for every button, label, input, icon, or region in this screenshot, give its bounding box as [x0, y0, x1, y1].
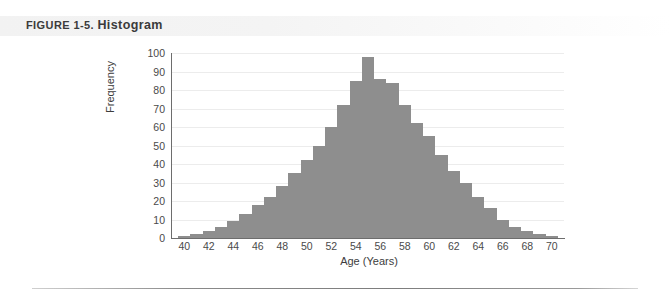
y-axis-title: Frequency — [104, 61, 116, 113]
histogram-bar — [301, 160, 313, 238]
histogram-bar — [362, 57, 374, 238]
y-tick-label: 30 — [139, 177, 165, 189]
y-tick-label: 90 — [139, 66, 165, 78]
x-axis-ticks: 40424446485052545658606264666870 — [172, 240, 566, 256]
figure-caption: FIGURE 1-5. Histogram — [26, 18, 163, 32]
y-tick-label: 40 — [139, 158, 165, 170]
histogram-bar — [423, 136, 435, 238]
x-tick-label: 40 — [173, 240, 195, 252]
histogram-bar — [215, 227, 227, 238]
histogram-bar — [497, 220, 509, 239]
y-tick-label: 10 — [139, 214, 165, 226]
plot-area — [172, 53, 564, 238]
y-axis-ticks: 0102030405060708090100 — [137, 53, 165, 238]
histogram-bar — [411, 123, 423, 238]
x-tick-label: 44 — [222, 240, 244, 252]
histogram-bar — [276, 186, 288, 238]
x-tick-label: 58 — [394, 240, 416, 252]
x-tick-label: 54 — [345, 240, 367, 252]
x-tick-label: 68 — [516, 240, 538, 252]
histogram-bar — [252, 205, 264, 238]
x-tick-label: 50 — [296, 240, 318, 252]
x-tick-label: 52 — [320, 240, 342, 252]
x-tick-label: 62 — [443, 240, 465, 252]
y-tick-label: 0 — [139, 232, 165, 244]
figure-title: Histogram — [97, 18, 162, 32]
histogram-bar — [203, 231, 215, 238]
histogram-bar — [546, 236, 558, 238]
y-tick-label: 50 — [139, 140, 165, 152]
x-tick-label: 46 — [247, 240, 269, 252]
histogram-bar — [521, 231, 533, 238]
x-tick-label: 48 — [271, 240, 293, 252]
histogram-bar — [448, 171, 460, 238]
x-tick-label: 56 — [369, 240, 391, 252]
histogram-bar — [288, 173, 300, 238]
x-axis-title: Age (Years) — [172, 255, 566, 267]
x-axis-line — [171, 238, 565, 239]
histogram-bar — [239, 214, 251, 238]
y-tick-label: 80 — [139, 84, 165, 96]
y-tick-label: 20 — [139, 195, 165, 207]
y-tick-label: 100 — [139, 47, 165, 59]
histogram-figure: Frequency 0102030405060708090100 4042444… — [0, 40, 670, 270]
histogram-bar — [313, 146, 325, 239]
figure-label: FIGURE 1-5. — [26, 19, 94, 31]
bottom-divider — [32, 288, 638, 289]
histogram-bar — [472, 197, 484, 238]
histogram-bar — [484, 208, 496, 238]
histogram-bar — [460, 183, 472, 239]
histogram-bar — [178, 236, 190, 238]
histogram-bar — [325, 127, 337, 238]
y-tick-label: 70 — [139, 103, 165, 115]
histogram-bar — [386, 83, 398, 238]
histogram-bar — [509, 227, 521, 238]
histogram-bars — [172, 53, 564, 238]
x-tick-label: 60 — [418, 240, 440, 252]
histogram-bar — [264, 197, 276, 238]
histogram-bar — [533, 234, 545, 238]
x-tick-label: 42 — [198, 240, 220, 252]
histogram-bar — [350, 81, 362, 238]
histogram-bar — [337, 105, 349, 238]
x-tick-label: 66 — [492, 240, 514, 252]
histogram-bar — [227, 221, 239, 238]
histogram-bar — [374, 79, 386, 238]
y-tick-label: 60 — [139, 121, 165, 133]
x-tick-label: 70 — [541, 240, 563, 252]
histogram-bar — [190, 234, 202, 238]
x-tick-label: 64 — [467, 240, 489, 252]
histogram-bar — [399, 105, 411, 238]
histogram-bar — [435, 155, 447, 238]
